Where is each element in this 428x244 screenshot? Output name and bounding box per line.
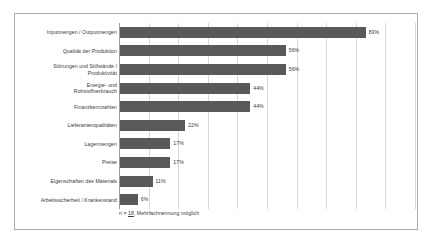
chart-plot-wrapper: Inputmengen / OutputmengenQualität der P… (15, 14, 417, 229)
category-label: Qualität der Produktion (17, 48, 117, 54)
bar (120, 83, 250, 94)
bar (120, 27, 366, 38)
category-label: Arbeitssicherheit / Krankenstand (17, 197, 117, 203)
bar (120, 176, 153, 187)
bar (120, 138, 170, 149)
bar (120, 157, 170, 168)
category-label: Lieferantenqualitäten (17, 122, 117, 128)
category-label: Energie- und Rohstoffverbrauch (17, 82, 117, 95)
category-label: Störungen und Stillstände / Produktivitä… (17, 63, 117, 76)
category-axis-labels: Inputmengen / OutputmengenQualität der P… (17, 23, 117, 209)
bar (120, 194, 138, 205)
gridline (326, 23, 327, 209)
category-label: Lagermengen (17, 141, 117, 147)
bar-value-label: 17% (173, 138, 184, 149)
bar-value-label: 44% (253, 83, 264, 94)
category-label: Eigenschaften des Materials (17, 178, 117, 184)
bar-value-label: 11% (156, 176, 166, 187)
chart-frame: Inputmengen / OutputmengenQualität der P… (14, 13, 418, 230)
bar-value-label: 17% (173, 157, 184, 168)
bar (120, 45, 286, 56)
bar-value-label: 56% (289, 64, 300, 75)
category-label: Preise (17, 159, 117, 165)
category-label: Finanzkennzahlen (17, 104, 117, 110)
bar (120, 64, 286, 75)
bar-value-label: 44% (253, 101, 264, 112)
plot-area: 83%56%56%44%44%22%17%17%11%6% (119, 23, 415, 209)
bar-value-label: 22% (188, 120, 199, 131)
footnote-suffix: , Mehrfachnennung möglich (134, 210, 199, 216)
bar-value-label: 56% (289, 45, 300, 56)
gridline (385, 23, 386, 209)
chart-footnote: n = 18, Mehrfachnennung möglich (119, 210, 199, 216)
gridline (356, 23, 357, 209)
bar-value-label: 83% (369, 27, 380, 38)
category-label: Inputmengen / Outputmengen (17, 29, 117, 35)
gridline (415, 23, 416, 209)
bar-value-label: 6% (141, 194, 149, 205)
footnote-prefix: n = (119, 210, 128, 216)
bar (120, 120, 185, 131)
bar (120, 101, 250, 112)
